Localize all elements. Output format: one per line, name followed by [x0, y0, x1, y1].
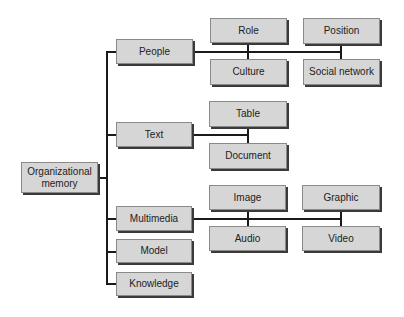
node-label: Multimedia [130, 213, 178, 225]
text-table-document-vertical [247, 126, 249, 144]
node-multimedia: Multimedia [116, 206, 192, 231]
node-audio: Audio [209, 226, 286, 251]
node-role: Role [210, 18, 287, 43]
multimedia-graphic-video-vertical [340, 210, 342, 227]
node-label: Model [140, 245, 167, 257]
multimedia-horizontal [192, 218, 342, 220]
node-people: People [116, 39, 193, 64]
model-stub [106, 251, 116, 253]
node-social-network: Social network [303, 59, 380, 85]
node-label: Image [234, 192, 262, 204]
node-model: Model [116, 239, 192, 263]
multimedia-image-audio-vertical [247, 210, 249, 227]
node-label: Organizational [27, 166, 91, 178]
node-culture: Culture [210, 59, 287, 85]
organizational-memory-diagram: Organizational memory People Text Multim… [0, 0, 404, 317]
node-position: Position [303, 18, 380, 44]
node-organizational-memory: Organizational memory [21, 162, 98, 193]
node-label: Graphic [323, 192, 358, 204]
node-graphic: Graphic [302, 185, 380, 210]
node-label: Culture [232, 66, 264, 78]
node-label: Social network [309, 66, 374, 78]
node-label: memory [41, 178, 77, 190]
people-role-culture-vertical [247, 43, 249, 60]
node-label: Audio [235, 233, 261, 245]
node-knowledge: Knowledge [116, 272, 192, 296]
people-horizontal [193, 51, 342, 53]
multimedia-stub [106, 218, 116, 220]
node-label: Knowledge [129, 278, 178, 290]
node-label: Position [324, 25, 360, 37]
trunk-line [106, 51, 108, 285]
text-horizontal [192, 134, 249, 136]
people-stub [106, 51, 116, 53]
people-position-social-vertical [340, 43, 342, 60]
text-stub [106, 134, 116, 136]
node-text: Text [116, 122, 192, 147]
node-label: Text [145, 129, 163, 141]
node-label: People [139, 46, 170, 58]
node-label: Video [328, 233, 353, 245]
node-image: Image [209, 185, 286, 210]
node-label: Role [238, 25, 259, 37]
node-table: Table [209, 101, 287, 127]
node-label: Document [225, 150, 271, 162]
node-video: Video [302, 226, 380, 251]
node-document: Document [209, 143, 287, 169]
node-label: Table [236, 108, 260, 120]
knowledge-stub [106, 283, 116, 285]
